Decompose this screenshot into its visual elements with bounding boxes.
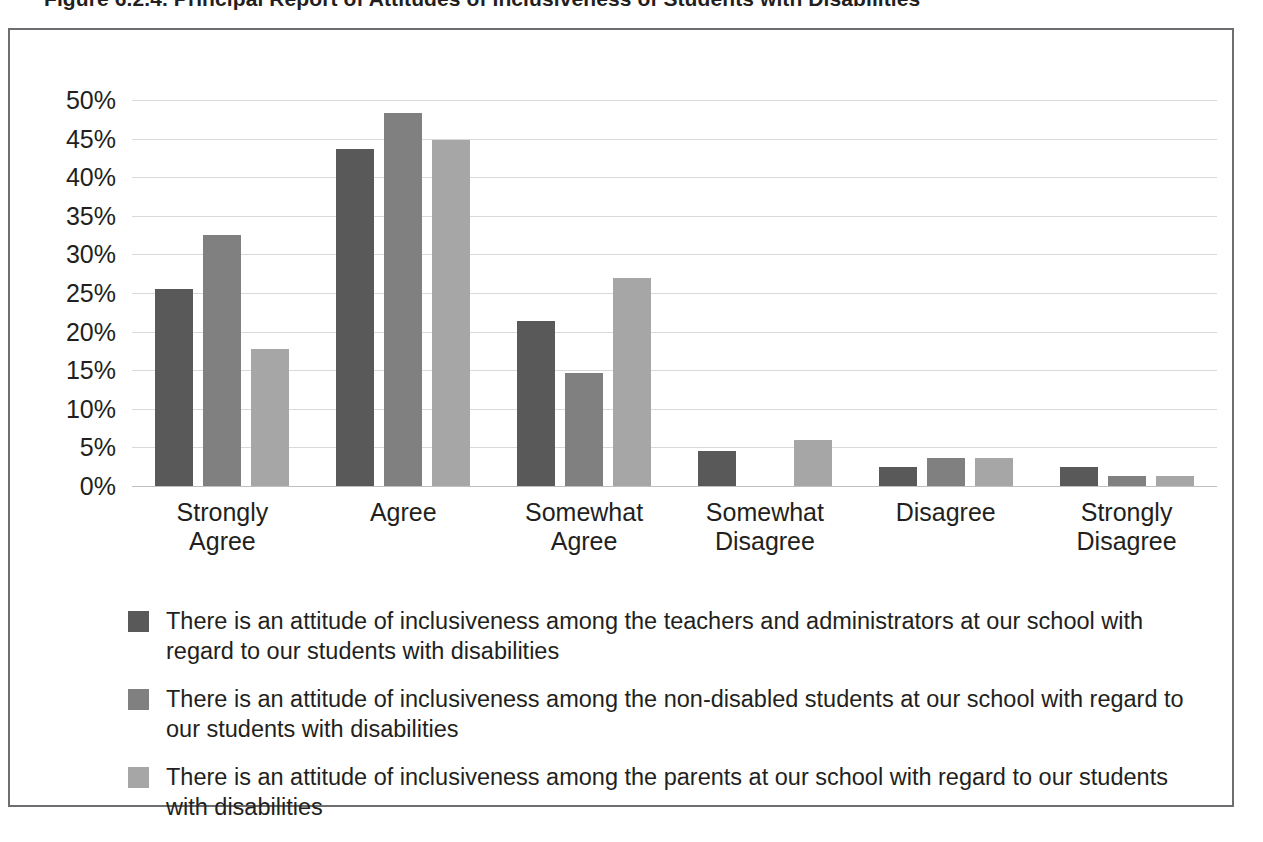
bar[interactable] [1156,476,1194,486]
bar-group [1036,100,1217,486]
legend-item[interactable]: There is an attitude of inclusiveness am… [128,762,1188,822]
plot-area: 50%45%40%35%30%25%20%15%10%5%0% [132,100,1217,486]
y-axis-tick-label: 50% [66,88,116,113]
x-axis-category-label: StronglyAgree [132,498,313,556]
bar[interactable] [565,373,603,486]
legend-item-label: There is an attitude of inclusiveness am… [166,762,1188,822]
x-axis-label-line: Disagree [1036,527,1217,556]
x-axis-label-line: Strongly [1036,498,1217,527]
legend-item[interactable]: There is an attitude of inclusiveness am… [128,606,1188,666]
x-axis-label-line: Agree [494,527,675,556]
y-axis-tick-label: 45% [66,126,116,151]
legend-item-label: There is an attitude of inclusiveness am… [166,684,1188,744]
x-axis-category-label: StronglyDisagree [1036,498,1217,556]
bar[interactable] [251,349,289,486]
bar[interactable] [1060,467,1098,486]
bar[interactable] [336,149,374,486]
axis-baseline [132,486,1217,487]
legend-swatch-icon [128,689,149,710]
chart-area: 50%45%40%35%30%25%20%15%10%5%0% Strongly… [10,30,1236,500]
y-axis-tick-label: 10% [66,396,116,421]
x-axis-label-line: Agree [313,498,494,527]
legend-item[interactable]: There is an attitude of inclusiveness am… [128,684,1188,744]
legend-swatch-icon [128,767,149,788]
bar[interactable] [927,458,965,486]
figure-frame: 50%45%40%35%30%25%20%15%10%5%0% Strongly… [8,28,1234,807]
bar[interactable] [517,321,555,486]
y-axis-tick-label: 0% [80,474,116,499]
figure-title: Figure 6.2.4. Principal Report of Attitu… [44,0,1224,11]
y-axis-tick-label: 15% [66,358,116,383]
legend-item-label: There is an attitude of inclusiveness am… [166,606,1188,666]
bar[interactable] [613,278,651,486]
x-axis-label-line: Somewhat [494,498,675,527]
legend-swatch-icon [128,611,149,632]
x-axis-category-label: SomewhatDisagree [675,498,856,556]
x-axis-label-line: Disagree [675,527,856,556]
chart-legend: There is an attitude of inclusiveness am… [128,606,1188,840]
y-axis-tick-label: 35% [66,203,116,228]
bar-group [675,100,856,486]
x-axis-label-line: Agree [132,527,313,556]
bar-group [494,100,675,486]
bar-group [132,100,313,486]
y-axis-tick-label: 5% [80,435,116,460]
x-axis-label-line: Disagree [855,498,1036,527]
bar[interactable] [698,451,736,486]
x-axis-label-line: Strongly [132,498,313,527]
x-axis-category-label: Agree [313,498,494,527]
x-axis-category-label: SomewhatAgree [494,498,675,556]
bar[interactable] [155,289,193,486]
x-axis-label-line: Somewhat [675,498,856,527]
bar[interactable] [432,140,470,486]
x-axis-category-label: Disagree [855,498,1036,527]
bar[interactable] [1108,476,1146,486]
y-axis-tick-label: 25% [66,281,116,306]
bar-group [313,100,494,486]
y-axis-tick-label: 20% [66,319,116,344]
bar[interactable] [794,440,832,486]
y-axis-tick-label: 30% [66,242,116,267]
y-axis-tick-label: 40% [66,165,116,190]
bar[interactable] [975,458,1013,486]
bar-group [855,100,1036,486]
bar[interactable] [384,113,422,486]
bar[interactable] [879,467,917,486]
bar[interactable] [203,235,241,486]
